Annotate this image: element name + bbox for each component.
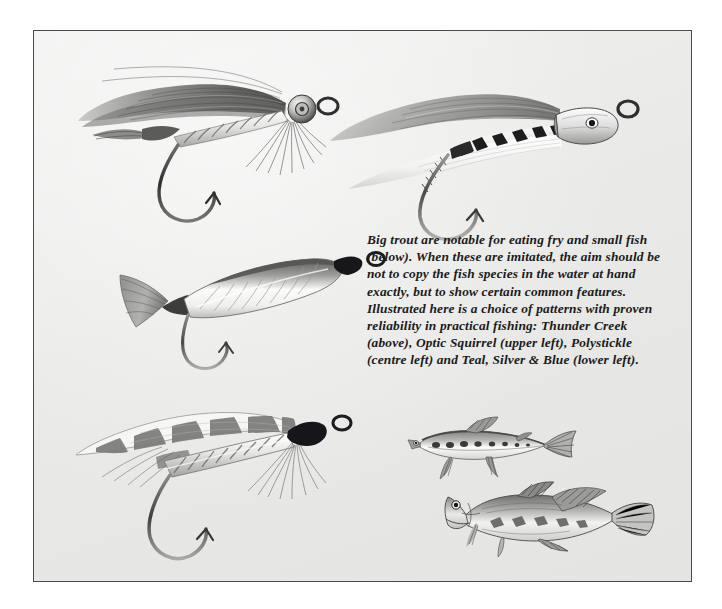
hook	[159, 145, 214, 221]
figure-polystickle	[104, 241, 394, 381]
teal-silver-blue-drawing	[56, 399, 366, 559]
figure-teal-silver-blue	[56, 399, 366, 559]
figure-optic-squirrel	[56, 59, 356, 234]
hook-eye	[333, 416, 351, 430]
bullhead-drawing	[442, 473, 662, 573]
illustration-plate: Big trout are notable for eating fry and…	[33, 30, 692, 582]
figure-thunder-creek	[322, 71, 642, 231]
hook	[183, 315, 227, 369]
optic-squirrel-drawing	[56, 59, 356, 234]
caption-text-block: Big trout are notable for eating fry and…	[367, 231, 664, 369]
plate-page: Big trout are notable for eating fry and…	[0, 0, 722, 609]
hook	[149, 475, 206, 559]
polystickle-drawing	[104, 241, 394, 381]
caption-paragraph: Big trout are notable for eating fry and…	[367, 231, 664, 369]
hook-eye	[618, 101, 638, 117]
thunder-creek-drawing	[322, 71, 642, 231]
figure-bullhead	[442, 473, 662, 573]
